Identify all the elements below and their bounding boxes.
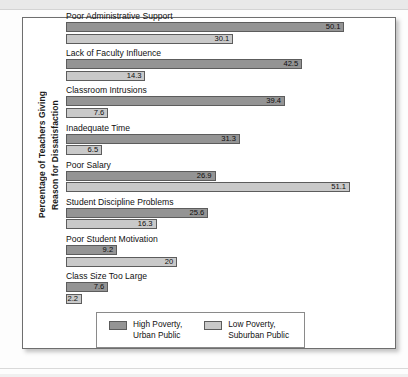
bar-value-label: 42.5 bbox=[283, 60, 301, 68]
bar-high-poverty: 25.6 bbox=[66, 208, 208, 218]
bar-value-label: 2.2 bbox=[67, 295, 81, 303]
bar-value-label: 7.6 bbox=[94, 109, 108, 117]
bar-high-poverty: 50.1 bbox=[66, 22, 344, 32]
bar-group: Poor Student Motivation9.220 bbox=[66, 233, 364, 270]
bar-low-poverty: 30.1 bbox=[66, 34, 233, 44]
bar-high-poverty: 31.3 bbox=[66, 134, 240, 144]
bar-group: Classroom Intrusions39.47.6 bbox=[66, 84, 364, 121]
bar-value-label: 51.1 bbox=[331, 183, 349, 191]
bar-value-label: 50.1 bbox=[326, 23, 344, 31]
category-label: Class Size Too Large bbox=[66, 270, 147, 282]
bar-value-label: 14.3 bbox=[127, 72, 145, 80]
bar-low-poverty: 20 bbox=[66, 257, 177, 267]
bar-value-label: 6.5 bbox=[88, 146, 102, 154]
category-label: Student Discipline Problems bbox=[66, 196, 173, 208]
legend-label-low-poverty: Low Poverty, Suburban Public bbox=[228, 319, 289, 341]
chart-legend: High Poverty, Urban Public Low Poverty, … bbox=[96, 312, 305, 348]
bar-low-poverty: 16.3 bbox=[66, 219, 157, 229]
bar-value-label: 30.1 bbox=[215, 35, 233, 43]
page-bottom-rule bbox=[0, 368, 408, 369]
bar-group: Class Size Too Large7.62.2 bbox=[66, 270, 364, 307]
legend-item-low-poverty: Low Poverty, Suburban Public bbox=[204, 319, 289, 341]
bar-group: Student Discipline Problems25.616.3 bbox=[66, 196, 364, 233]
bar-low-poverty: 51.1 bbox=[66, 182, 350, 192]
legend-item-high-poverty: High Poverty, Urban Public bbox=[109, 319, 182, 341]
bar-high-poverty: 26.9 bbox=[66, 171, 216, 181]
bar-high-poverty: 7.6 bbox=[66, 282, 108, 292]
bar-low-poverty: 2.2 bbox=[66, 294, 82, 304]
legend-label-high-poverty-line-1: High Poverty, bbox=[133, 319, 182, 329]
bar-value-label: 39.4 bbox=[266, 97, 284, 105]
category-label: Poor Administrative Support bbox=[66, 10, 173, 22]
page-top-strip bbox=[0, 0, 408, 10]
bar-value-label: 16.3 bbox=[138, 220, 156, 228]
y-axis-label-line-1: Percentage of Teachers Giving bbox=[36, 20, 49, 290]
bar-group: Lack of Faculty Influence42.514.3 bbox=[66, 47, 364, 84]
bar-group: Poor Salary26.951.1 bbox=[66, 159, 364, 196]
bar-value-label: 7.6 bbox=[94, 283, 108, 291]
category-label: Inadequate Time bbox=[66, 122, 130, 134]
bar-value-label: 9.2 bbox=[103, 246, 117, 254]
category-label: Lack of Faculty Influence bbox=[66, 47, 161, 59]
y-axis-label-line-2: Reason for Dissatisfaction bbox=[49, 20, 62, 290]
bar-high-poverty: 9.2 bbox=[66, 245, 117, 255]
bar-low-poverty: 6.5 bbox=[66, 145, 102, 155]
bar-value-label: 20 bbox=[165, 258, 176, 266]
legend-label-low-poverty-line-1: Low Poverty, bbox=[228, 319, 275, 329]
plot-area: Poor Administrative Support50.130.1Lack … bbox=[66, 10, 364, 295]
category-label: Poor Salary bbox=[66, 159, 111, 171]
category-label: Classroom Intrusions bbox=[66, 84, 147, 96]
legend-swatch-low-poverty bbox=[204, 321, 222, 330]
category-label: Poor Student Motivation bbox=[66, 233, 158, 245]
bar-low-poverty: 7.6 bbox=[66, 108, 108, 118]
bar-high-poverty: 42.5 bbox=[66, 59, 302, 69]
bar-group: Inadequate Time31.36.5 bbox=[66, 122, 364, 159]
legend-swatch-high-poverty bbox=[109, 321, 127, 330]
y-axis-label: Percentage of Teachers Giving Reason for… bbox=[36, 20, 66, 290]
legend-label-high-poverty: High Poverty, Urban Public bbox=[133, 319, 182, 341]
bar-low-poverty: 14.3 bbox=[66, 71, 145, 81]
bar-group: Poor Administrative Support50.130.1 bbox=[66, 10, 364, 47]
legend-label-high-poverty-line-2: Urban Public bbox=[133, 330, 181, 340]
bar-value-label: 31.3 bbox=[221, 135, 239, 143]
legend-label-low-poverty-line-2: Suburban Public bbox=[228, 330, 289, 340]
bar-value-label: 25.6 bbox=[189, 209, 207, 217]
bar-high-poverty: 39.4 bbox=[66, 96, 285, 106]
bar-value-label: 26.9 bbox=[197, 172, 215, 180]
